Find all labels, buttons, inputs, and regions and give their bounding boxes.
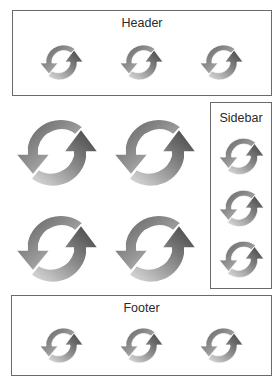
refresh-icon[interactable] xyxy=(116,37,166,87)
refresh-icon[interactable] xyxy=(36,320,86,370)
refresh-icon[interactable] xyxy=(215,182,267,234)
sidebar-label: Sidebar xyxy=(211,111,271,125)
sidebar-panel: Sidebar xyxy=(210,102,272,289)
header-panel: Header xyxy=(12,10,272,96)
refresh-icon[interactable] xyxy=(106,200,202,296)
refresh-icon[interactable] xyxy=(215,233,267,285)
refresh-icon[interactable] xyxy=(116,320,166,370)
refresh-icon[interactable] xyxy=(215,130,267,182)
main-content xyxy=(0,100,208,292)
refresh-icon[interactable] xyxy=(8,104,104,200)
refresh-icon[interactable] xyxy=(106,104,202,200)
footer-panel: Footer xyxy=(11,295,272,376)
refresh-icon[interactable] xyxy=(8,200,104,296)
header-label: Header xyxy=(13,16,271,30)
refresh-icon[interactable] xyxy=(196,37,246,87)
footer-label: Footer xyxy=(12,301,271,315)
refresh-icon[interactable] xyxy=(36,37,86,87)
refresh-icon[interactable] xyxy=(196,320,246,370)
